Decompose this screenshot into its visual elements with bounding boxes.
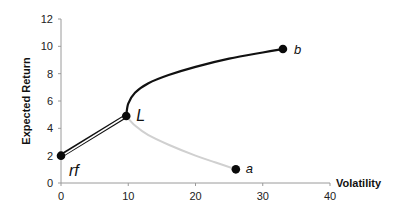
x-axis-title: Volatility (336, 177, 382, 189)
efficient-frontier-curve (126, 49, 283, 116)
y-tick-label: 8 (47, 68, 53, 80)
y-tick-label: 2 (47, 150, 53, 162)
y-tick-label: 0 (47, 177, 53, 189)
point-b-label: b (294, 42, 301, 57)
x-tick-label: 0 (58, 190, 64, 202)
x-tick-label: 40 (324, 190, 336, 202)
point-a-marker (232, 165, 241, 174)
y-tick-label: 6 (47, 95, 53, 107)
point-b-marker (279, 45, 288, 54)
x-ticks: 010203040 (58, 183, 336, 202)
y-tick-label: 12 (41, 13, 53, 25)
y-tick-label: 4 (47, 122, 53, 134)
x-tick-label: 30 (257, 190, 269, 202)
x-tick-label: 20 (189, 190, 201, 202)
y-axis-title: Expected Return (20, 57, 32, 145)
y-tick-label: 10 (41, 40, 53, 52)
point-a-label: a (246, 161, 253, 176)
point-rf-label: rf (69, 162, 80, 179)
chart: 024681012 010203040 Expected Return Vola… (0, 0, 403, 218)
point-L-marker (122, 112, 131, 121)
series-layer (61, 49, 283, 169)
x-tick-label: 10 (122, 190, 134, 202)
axes: 024681012 010203040 (41, 13, 336, 202)
point-L-label: L (136, 107, 145, 124)
y-ticks: 024681012 (41, 13, 61, 189)
capital-line-inner (63, 117, 125, 156)
point-rf-marker (57, 151, 66, 160)
points-layer: rfLab (57, 42, 301, 179)
